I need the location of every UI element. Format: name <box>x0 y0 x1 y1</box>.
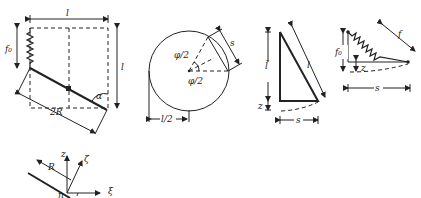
figure-a-pendulum-spring: l f₀ l α 2R <box>4 8 124 134</box>
figure-b-circle: φ/2 φ/2 s l/2 <box>149 29 242 124</box>
label-alpha: α <box>96 91 102 101</box>
label-z: z <box>60 149 66 159</box>
label-l-right: l <box>121 62 124 72</box>
label-xi: ξ <box>108 186 114 196</box>
figure-d-spring-triangle: f₀ z f s <box>334 24 415 93</box>
label-z: z <box>257 101 263 111</box>
label-f0: f₀ <box>334 47 342 57</box>
label-n: n <box>58 190 64 198</box>
triangle <box>280 32 318 101</box>
label-s: s <box>375 83 380 93</box>
label-phi-lower: φ/2 <box>188 76 203 86</box>
label-l-hyp: l <box>307 60 310 70</box>
label-s: s <box>296 115 301 125</box>
label-2R: 2R <box>49 107 63 117</box>
label-z: z <box>360 63 366 73</box>
figure-e-coordinate-frame: z ζ R ξ n <box>28 149 114 198</box>
label-f: f <box>397 29 403 39</box>
mass-marker <box>66 86 71 91</box>
label-f0: f₀ <box>4 44 12 54</box>
label-R: R <box>47 162 55 172</box>
figure-c-triangle: l̃ l z s <box>257 26 325 125</box>
label-zeta: ζ <box>84 154 90 164</box>
label-phi-upper: φ/2 <box>174 50 189 60</box>
label-l-half: l/2 <box>161 114 173 124</box>
label-l-top: l <box>66 8 69 18</box>
diagram-canvas: l f₀ l α 2R φ/2 φ/2 s l/2 <box>0 0 421 198</box>
label-s: s <box>230 38 235 48</box>
